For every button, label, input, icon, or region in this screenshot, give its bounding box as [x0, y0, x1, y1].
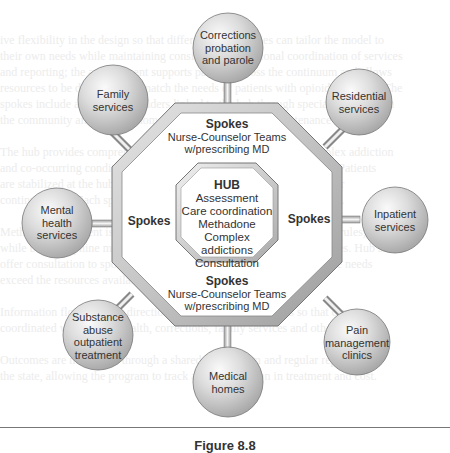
caption-divider — [0, 427, 450, 428]
node-text: abuse — [58, 324, 138, 337]
figure-caption: Figure 8.8 — [0, 438, 450, 453]
spokes-top-label: Spokes Nurse-Counselor Teams w/prescribi… — [152, 118, 302, 156]
node-text: clinics — [317, 349, 397, 362]
node-text: Residential — [319, 90, 399, 103]
node-family-label: Family services — [73, 88, 153, 113]
hub-line-complex-addictions: Complex addictions — [177, 231, 277, 257]
node-pain-label: Pain management clinics — [317, 324, 397, 362]
node-inpatient-label: Inpatient services — [355, 208, 435, 233]
node-text: services — [17, 229, 97, 242]
spokes-bottom-title: Spokes — [152, 275, 302, 288]
node-text: Mental — [17, 204, 97, 217]
spokes-bottom-line1: Nurse-Counselor Teams — [152, 288, 302, 301]
node-corrections-label: Corrections probation and parole — [188, 29, 268, 67]
hub-line-consultation: Consultation — [177, 257, 277, 270]
node-text: Pain — [317, 324, 397, 337]
node-text: treatment — [58, 349, 138, 362]
node-residential-label: Residential services — [319, 90, 399, 115]
node-text: Substance — [58, 311, 138, 324]
node-text: management — [317, 337, 397, 350]
node-text: Family — [73, 88, 153, 101]
node-text: and parole — [188, 54, 268, 67]
spokes-top-line2: w/prescribing MD — [152, 143, 302, 156]
node-text: Corrections — [188, 29, 268, 42]
spokes-top-line1: Nurse-Counselor Teams — [152, 131, 302, 144]
node-text: Inpatient — [355, 208, 435, 221]
spokes-right-label: Spokes — [284, 213, 334, 226]
node-medical-label: Medical homes — [188, 370, 268, 395]
spokes-top-title: Spokes — [152, 118, 302, 131]
node-text: probation — [188, 42, 268, 55]
spokes-left-label: Spokes — [124, 215, 174, 228]
hub-label: HUB Assessment Care coordination Methado… — [177, 179, 277, 270]
hub-line-methadone: Methadone — [177, 218, 277, 231]
hub-line-care-coordination: Care coordination — [177, 205, 277, 218]
hub-line-assessment: Assessment — [177, 192, 277, 205]
node-text: services — [319, 103, 399, 116]
node-text: services — [73, 101, 153, 114]
node-text: health — [17, 217, 97, 230]
node-text: outpatient — [58, 336, 138, 349]
node-substance-label: Substance abuse outpatient treatment — [58, 311, 138, 361]
node-text: Medical — [188, 370, 268, 383]
node-text: homes — [188, 383, 268, 396]
spokes-bottom-label: Spokes Nurse-Counselor Teams w/prescribi… — [152, 275, 302, 313]
hub-title: HUB — [177, 179, 277, 192]
node-mental-label: Mental health services — [17, 204, 97, 242]
node-text: services — [355, 221, 435, 234]
spokes-bottom-line2: w/prescribing MD — [152, 300, 302, 313]
